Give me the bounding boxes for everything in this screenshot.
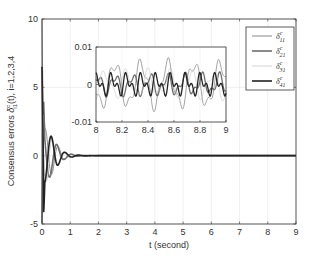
y-axis-label: Consensus errors δci1(t), i=1,2,3,4 xyxy=(5,56,18,187)
inset-x-tick-label: 8.2 xyxy=(116,125,129,135)
x-tick-label: 0 xyxy=(39,227,44,237)
x-tick-label: 2 xyxy=(96,227,101,237)
x-tick-label: 8 xyxy=(265,227,270,237)
inset-x-tick-label: 8.4 xyxy=(142,125,155,135)
x-tick-label: 4 xyxy=(152,227,157,237)
inset-x-tick-label: 8.8 xyxy=(194,125,207,135)
inset-y-tick-label: 0.01 xyxy=(74,42,92,52)
chart: 0123456789 -50510 t (second) Consensus e… xyxy=(0,0,314,262)
x-tick-label: 9 xyxy=(293,227,298,237)
inset-x-tick-label: 9 xyxy=(223,125,228,135)
inset-y-tick-label: -0.01 xyxy=(71,117,92,127)
inset-y-tick-label: 0 xyxy=(87,80,92,90)
x-tick-label: 7 xyxy=(237,227,242,237)
x-tick-label: 1 xyxy=(68,227,73,237)
x-tick-label: 5 xyxy=(181,227,186,237)
y-tick-label: 5 xyxy=(33,82,38,92)
y-tick-label: 10 xyxy=(28,14,38,24)
inset-x-tick-label: 8.6 xyxy=(168,125,181,135)
inset-x-tick-label: 8 xyxy=(93,125,98,135)
svg-text:Consensus errors δci1(t), i=1,: Consensus errors δci1(t), i=1,2,3,4 xyxy=(5,56,18,187)
x-tick-label: 3 xyxy=(124,227,129,237)
y-tick-label: -5 xyxy=(30,219,38,229)
x-tick-label: 6 xyxy=(209,227,214,237)
x-axis-label: t (second) xyxy=(149,240,189,250)
legend: δc11δc21δc31δc41 xyxy=(246,27,294,90)
y-tick-label: 0 xyxy=(33,151,38,161)
